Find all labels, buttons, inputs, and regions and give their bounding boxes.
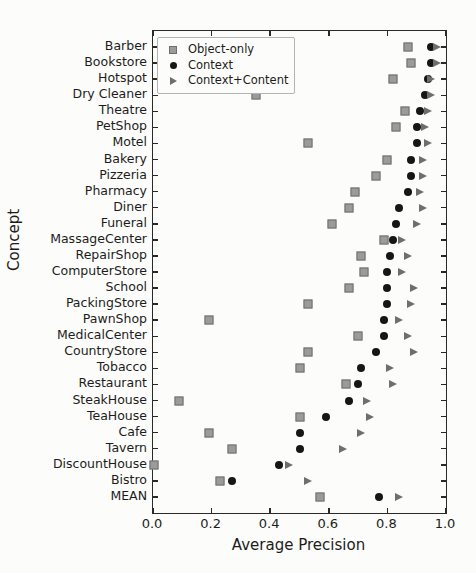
- triangle-data-point: [416, 188, 424, 196]
- triangle-data-point: [398, 268, 406, 276]
- x-axis-title: Average Precision: [152, 536, 445, 554]
- category-label: MassageCenter: [0, 231, 147, 247]
- x-tick-label: 0.8: [369, 516, 403, 531]
- circle-data-point: [275, 461, 283, 469]
- square-data-point: [351, 187, 360, 196]
- square-data-point: [383, 155, 392, 164]
- y-tick-mark: [153, 191, 158, 193]
- legend-item-context: Context: [158, 58, 294, 74]
- y-tick-mark: [153, 255, 158, 257]
- x-tick-label: 0.2: [194, 516, 228, 531]
- square-data-point: [406, 59, 415, 68]
- x-tick-mark: [152, 31, 154, 36]
- square-data-point: [380, 235, 389, 244]
- triangle-data-point: [404, 252, 412, 260]
- square-data-point: [304, 139, 313, 148]
- square-data-point: [403, 43, 412, 52]
- circle-data-point: [413, 123, 421, 131]
- triangle-data-point: [433, 59, 441, 67]
- square-data-point: [228, 444, 237, 453]
- circle-data-point: [345, 397, 353, 405]
- square-marker-icon: [158, 46, 188, 54]
- triangle-data-point: [421, 123, 429, 131]
- category-label: Cafe: [0, 424, 147, 440]
- circle-data-point: [228, 477, 236, 485]
- triangle-data-point: [357, 429, 365, 437]
- triangle-data-point: [427, 91, 435, 99]
- circle-data-point: [296, 429, 304, 437]
- triangle-data-point: [395, 493, 403, 501]
- circle-data-point: [389, 236, 397, 244]
- y-tick-mark: [153, 111, 158, 113]
- category-label: MedicalCenter: [0, 327, 147, 343]
- category-label: Tobacco: [0, 359, 147, 375]
- y-tick-mark: [441, 46, 446, 48]
- triangle-data-point: [410, 284, 418, 292]
- y-tick-mark: [153, 207, 158, 209]
- circle-data-point: [322, 413, 330, 421]
- circle-data-point: [392, 220, 400, 228]
- x-tick-mark: [269, 508, 271, 513]
- circle-data-point: [383, 284, 391, 292]
- y-tick-mark: [153, 127, 158, 129]
- y-tick-mark: [441, 303, 446, 305]
- category-label: Funeral: [0, 215, 147, 231]
- circle-data-point: [372, 348, 380, 356]
- category-label: Hotspot: [0, 70, 147, 86]
- square-data-point: [354, 332, 363, 341]
- y-tick-mark: [153, 336, 158, 338]
- y-tick-mark: [153, 95, 158, 97]
- x-tick-mark: [269, 31, 271, 36]
- triangle-data-point: [366, 413, 374, 421]
- y-tick-mark: [441, 336, 446, 338]
- square-data-point: [359, 268, 368, 277]
- square-data-point: [175, 396, 184, 405]
- y-tick-mark: [441, 432, 446, 434]
- y-tick-mark: [153, 223, 158, 225]
- triangle-data-point: [419, 156, 427, 164]
- category-label: School: [0, 279, 147, 295]
- figure: Concept BarberBookstoreHotspotDry Cleane…: [0, 0, 476, 573]
- triangle-data-point: [285, 461, 293, 469]
- y-tick-mark: [441, 352, 446, 354]
- y-tick-mark: [153, 352, 158, 354]
- y-tick-mark: [153, 319, 158, 321]
- legend: Object-only Context Context+Content: [157, 37, 295, 94]
- category-label: DiscountHouse: [0, 456, 147, 472]
- y-tick-mark: [441, 255, 446, 257]
- x-tick-mark: [445, 508, 447, 513]
- square-data-point: [389, 75, 398, 84]
- y-tick-mark: [441, 271, 446, 273]
- square-data-point: [204, 428, 213, 437]
- x-tick-label: 0.4: [252, 516, 286, 531]
- square-data-point: [216, 476, 225, 485]
- y-tick-mark: [441, 319, 446, 321]
- circle-data-point: [416, 107, 424, 115]
- x-tick-mark: [387, 508, 389, 513]
- category-label: Bakery: [0, 151, 147, 167]
- legend-item-context-content: Context+Content: [158, 73, 294, 89]
- square-data-point: [316, 492, 325, 501]
- category-label: Restaurant: [0, 375, 147, 391]
- plot-area: Object-only Context Context+Content: [152, 30, 447, 514]
- legend-item-object-only: Object-only: [158, 42, 294, 58]
- triangle-data-point: [404, 332, 412, 340]
- circle-data-point: [296, 445, 304, 453]
- circle-data-point: [380, 316, 388, 324]
- x-tick-mark: [152, 508, 154, 513]
- triangle-data-point: [363, 397, 371, 405]
- y-tick-mark: [441, 464, 446, 466]
- triangle-data-point: [427, 75, 435, 83]
- y-tick-mark: [441, 239, 446, 241]
- category-label: PackingStore: [0, 295, 147, 311]
- y-tick-mark: [441, 448, 446, 450]
- y-tick-mark: [441, 287, 446, 289]
- y-tick-mark: [441, 207, 446, 209]
- y-tick-mark: [153, 384, 158, 386]
- category-label: ComputerStore: [0, 263, 147, 279]
- y-tick-mark: [153, 416, 158, 418]
- category-label: SteakHouse: [0, 392, 147, 408]
- triangle-data-point: [395, 316, 403, 324]
- square-data-point: [295, 412, 304, 421]
- category-label: Diner: [0, 199, 147, 215]
